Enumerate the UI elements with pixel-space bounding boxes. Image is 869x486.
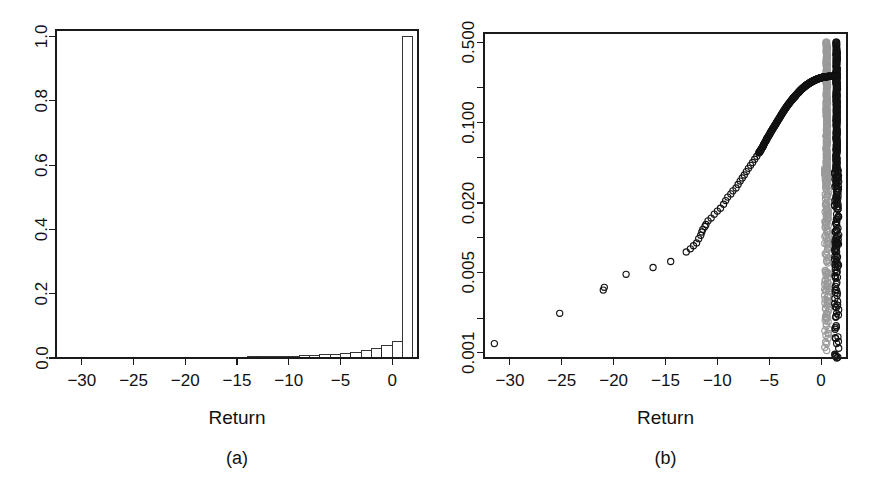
- y-tick-label: 0.020: [460, 182, 479, 225]
- panel-caption: (a): [226, 448, 248, 468]
- panel-caption: (b): [655, 448, 677, 468]
- y-tick-label: 0.0: [33, 346, 52, 370]
- x-tick-label: −30: [496, 371, 525, 390]
- y-tick-label: 0.100: [460, 101, 479, 144]
- data-point-black: [623, 271, 629, 277]
- y-tick-label: 0.500: [460, 21, 479, 64]
- data-point-black: [557, 310, 563, 316]
- plot-frame: [484, 33, 847, 358]
- y-tick-label: 0.005: [460, 251, 479, 294]
- histogram-bar: [392, 342, 402, 358]
- histogram-bar: [351, 352, 361, 358]
- y-tick-label: 1.0: [33, 25, 52, 49]
- x-tick-label: −5: [760, 371, 779, 390]
- panel-b: 0.0010.0050.0200.1000.500−30−25−20−15−10…: [435, 0, 869, 486]
- data-point-black: [668, 258, 674, 264]
- histogram-bar: [371, 348, 381, 358]
- figure-container: 0.00.20.40.60.81.0−30−25−20−15−10−50Retu…: [0, 0, 869, 486]
- panel-b-plot: 0.0010.0050.0200.1000.500−30−25−20−15−10…: [435, 0, 869, 486]
- x-tick-label: −5: [331, 371, 350, 390]
- y-tick-label: 0.6: [33, 153, 52, 177]
- y-tick-label: 0.4: [33, 218, 52, 242]
- data-point-black: [683, 249, 689, 255]
- x-tick-label: 0: [816, 371, 825, 390]
- data-point-black: [650, 264, 656, 270]
- x-tick-label: −10: [274, 371, 303, 390]
- x-tick-label: −20: [171, 371, 200, 390]
- histogram-bar: [402, 36, 412, 358]
- x-tick-label: −10: [703, 371, 732, 390]
- x-tick-label: −20: [599, 371, 628, 390]
- x-tick-label: −30: [67, 371, 96, 390]
- data-point-black: [491, 341, 497, 347]
- x-axis-title: Return: [637, 407, 694, 428]
- panel-a-group: 0.00.20.40.60.81.0−30−25−20−15−10−50Retu…: [33, 25, 419, 468]
- x-axis-title: Return: [208, 407, 265, 428]
- x-tick-label: −15: [651, 371, 680, 390]
- y-tick-label: 0.8: [33, 89, 52, 113]
- histogram-bar: [340, 354, 350, 359]
- y-tick-label: 0.2: [33, 282, 52, 306]
- panel-a: 0.00.20.40.60.81.0−30−25−20−15−10−50Retu…: [0, 0, 434, 486]
- x-tick-label: −25: [119, 371, 148, 390]
- histogram-bar: [382, 345, 392, 358]
- histogram-bar: [361, 351, 371, 358]
- x-tick-label: −25: [547, 371, 576, 390]
- panel-a-plot: 0.00.20.40.60.81.0−30−25−20−15−10−50Retu…: [0, 0, 434, 486]
- panel-b-group: 0.0010.0050.0200.1000.500−30−25−20−15−10…: [460, 21, 848, 468]
- x-tick-label: −15: [223, 371, 252, 390]
- y-tick-label: 0.001: [460, 331, 479, 374]
- x-tick-label: 0: [387, 371, 396, 390]
- plot-frame: [56, 30, 418, 358]
